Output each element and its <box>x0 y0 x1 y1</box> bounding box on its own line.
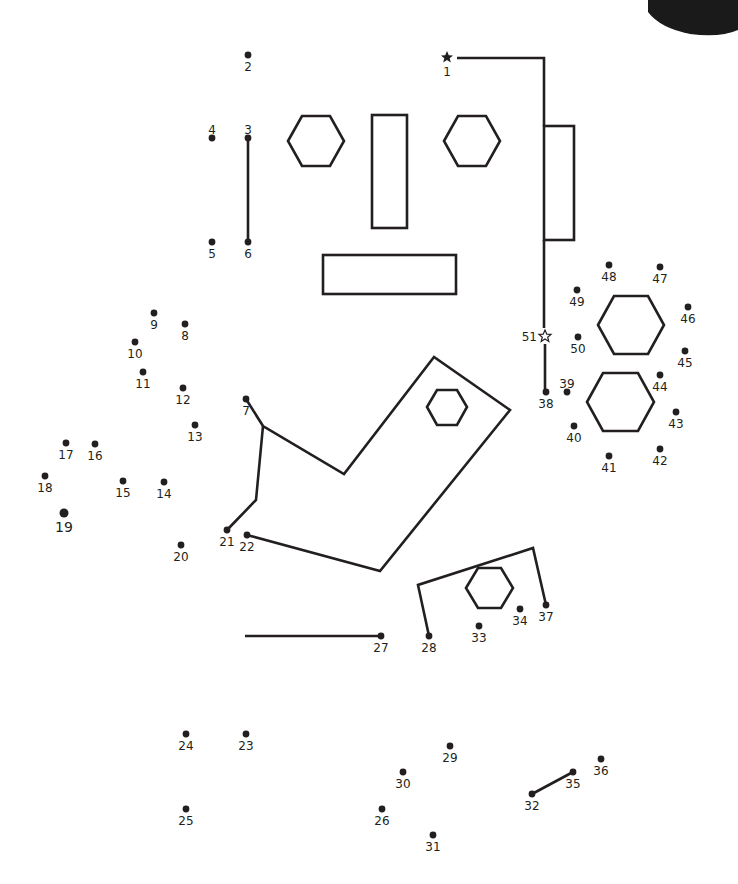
dot-marker[interactable] <box>183 806 190 813</box>
dot-17[interactable]: 17 <box>58 440 73 462</box>
dot-marker[interactable] <box>178 542 185 549</box>
start-marker[interactable]: 1 <box>441 51 453 79</box>
dot-38[interactable]: 38 <box>538 389 553 411</box>
dot-number-label: 35 <box>565 777 580 791</box>
dot-marker[interactable] <box>192 422 199 429</box>
dot-32[interactable]: 32 <box>524 791 539 813</box>
dot-marker[interactable] <box>476 623 483 630</box>
dot-marker[interactable] <box>447 743 454 750</box>
dot-marker[interactable] <box>606 453 613 460</box>
dot-16[interactable]: 16 <box>87 441 102 463</box>
dot-15[interactable]: 15 <box>115 478 130 500</box>
dot-21[interactable]: 21 <box>219 527 234 549</box>
dot-marker[interactable] <box>657 446 664 453</box>
dot-marker[interactable] <box>598 756 605 763</box>
dot-marker[interactable] <box>682 348 689 355</box>
dot-number-label: 5 <box>208 247 216 261</box>
dot-marker[interactable] <box>245 239 252 246</box>
dot-10[interactable]: 10 <box>127 339 142 361</box>
dot-8[interactable]: 8 <box>181 321 189 343</box>
dot-35[interactable]: 35 <box>565 769 580 791</box>
dot-marker[interactable] <box>120 478 127 485</box>
dot-4[interactable]: 4 <box>208 123 216 141</box>
nose-rect <box>372 115 407 228</box>
dot-marker[interactable] <box>161 479 168 486</box>
dot-48[interactable]: 48 <box>601 262 616 284</box>
dot-31[interactable]: 31 <box>425 832 440 854</box>
dot-13[interactable]: 13 <box>187 422 202 444</box>
dot-marker[interactable] <box>657 372 664 379</box>
dot-46[interactable]: 46 <box>680 304 695 326</box>
dot-number-label: 23 <box>238 739 253 753</box>
dot-36[interactable]: 36 <box>593 756 608 778</box>
dot-2[interactable]: 2 <box>244 52 252 74</box>
dot-marker[interactable] <box>379 806 386 813</box>
dot-marker[interactable] <box>685 304 692 311</box>
dot-23[interactable]: 23 <box>238 731 253 753</box>
dot-marker[interactable] <box>132 339 139 346</box>
dot-marker[interactable] <box>42 473 49 480</box>
dot-marker[interactable] <box>426 633 433 640</box>
dot-45[interactable]: 45 <box>677 348 692 370</box>
dot-marker[interactable] <box>60 509 69 518</box>
dot-30[interactable]: 30 <box>395 769 410 791</box>
dot-marker[interactable] <box>606 262 613 269</box>
dot-12[interactable]: 12 <box>175 385 190 407</box>
dot-33[interactable]: 33 <box>471 623 486 645</box>
dot-marker[interactable] <box>244 532 251 539</box>
dot-29[interactable]: 29 <box>442 743 457 765</box>
dot-40[interactable]: 40 <box>566 423 581 445</box>
dot-18[interactable]: 18 <box>37 473 52 495</box>
dot-marker[interactable] <box>243 731 250 738</box>
dot-14[interactable]: 14 <box>156 479 171 501</box>
dot-marker[interactable] <box>543 389 550 396</box>
dot-marker[interactable] <box>140 369 147 376</box>
dot-marker[interactable] <box>574 287 581 294</box>
dot-6[interactable]: 6 <box>244 239 252 261</box>
dot-26[interactable]: 26 <box>374 806 389 828</box>
dot-marker[interactable] <box>571 423 578 430</box>
dot-19[interactable]: 19 <box>55 509 73 536</box>
dot-11[interactable]: 11 <box>135 369 150 391</box>
dot-3[interactable]: 3 <box>244 123 252 141</box>
dot-marker[interactable] <box>570 769 577 776</box>
dot-marker[interactable] <box>63 440 70 447</box>
dot-marker[interactable] <box>543 602 550 609</box>
dot-marker[interactable] <box>182 321 189 328</box>
dot-marker[interactable] <box>529 791 536 798</box>
dot-41[interactable]: 41 <box>601 453 616 475</box>
dot-5[interactable]: 5 <box>208 239 216 261</box>
dot-marker[interactable] <box>245 52 252 59</box>
dot-marker[interactable] <box>400 769 407 776</box>
end-marker[interactable]: 51 <box>522 330 551 344</box>
dot-20[interactable]: 20 <box>173 542 188 564</box>
dot-marker[interactable] <box>180 385 187 392</box>
dot-marker[interactable] <box>430 832 437 839</box>
dot-marker[interactable] <box>224 527 231 534</box>
dot-34[interactable]: 34 <box>512 606 527 628</box>
dot-marker[interactable] <box>657 264 664 271</box>
dot-50[interactable]: 50 <box>570 334 585 356</box>
dot-22[interactable]: 22 <box>239 532 254 554</box>
dot-9[interactable]: 9 <box>150 310 158 332</box>
dot-44[interactable]: 44 <box>652 372 667 394</box>
dot-47[interactable]: 47 <box>652 264 667 286</box>
dot-marker[interactable] <box>92 441 99 448</box>
dot-marker[interactable] <box>575 334 582 341</box>
dot-marker[interactable] <box>517 606 524 613</box>
dot-37[interactable]: 37 <box>538 602 553 624</box>
dot-49[interactable]: 49 <box>569 287 584 309</box>
dot-marker[interactable] <box>243 396 250 403</box>
dot-7[interactable]: 7 <box>242 396 250 418</box>
dot-marker[interactable] <box>151 310 158 317</box>
dot-marker[interactable] <box>183 731 190 738</box>
dot-24[interactable]: 24 <box>178 731 193 753</box>
dot-42[interactable]: 42 <box>652 446 667 468</box>
dot-28[interactable]: 28 <box>421 633 436 655</box>
dot-marker[interactable] <box>673 409 680 416</box>
dot-39[interactable]: 39 <box>559 377 574 395</box>
dot-marker[interactable] <box>378 633 385 640</box>
dot-43[interactable]: 43 <box>668 409 683 431</box>
dot-25[interactable]: 25 <box>178 806 193 828</box>
dot-marker[interactable] <box>209 239 216 246</box>
